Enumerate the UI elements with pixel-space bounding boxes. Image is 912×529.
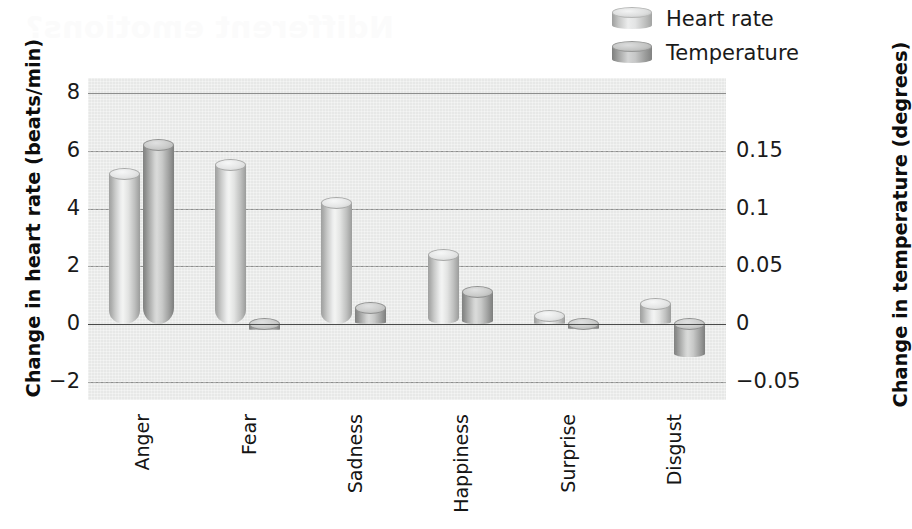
bar-heart-rate-happiness bbox=[428, 249, 459, 324]
bar-shaft bbox=[143, 145, 174, 324]
right-tick-label-1: 0.1 bbox=[736, 198, 806, 219]
gridline-left-0 bbox=[88, 93, 726, 94]
right-tick-label-0: 0.15 bbox=[736, 140, 806, 161]
category-axis-labels: AngerFearSadnessHappinessSurpriseDisgust bbox=[88, 400, 726, 529]
cylinder-dark-icon bbox=[612, 41, 652, 65]
category-label-surprise: Surprise bbox=[557, 414, 579, 493]
gridline-right-4 bbox=[88, 382, 726, 383]
category-label-fear: Fear bbox=[238, 414, 260, 455]
right-tick-label-4: −0.05 bbox=[736, 371, 806, 392]
category-label-sadness: Sadness bbox=[344, 414, 366, 493]
plot-area bbox=[88, 78, 726, 400]
bar-top-ellipse bbox=[143, 139, 174, 151]
bar-top-ellipse bbox=[321, 197, 352, 209]
left-tick-label-5: −2 bbox=[40, 371, 80, 392]
gridline-right-0 bbox=[88, 151, 726, 152]
bar-shaft bbox=[109, 174, 140, 324]
bar-shaft bbox=[321, 203, 352, 324]
bar-temperature-anger bbox=[143, 139, 174, 324]
gridline-right-1 bbox=[88, 209, 726, 210]
left-axis-ticks: 86420−2 bbox=[34, 0, 80, 529]
left-tick-label-4: 0 bbox=[40, 313, 80, 334]
bar-top-ellipse bbox=[534, 310, 565, 322]
bar-shaft bbox=[428, 255, 459, 324]
bar-temperature-happiness bbox=[462, 286, 493, 324]
category-label-happiness: Happiness bbox=[450, 414, 472, 513]
left-tick-label-1: 6 bbox=[40, 140, 80, 161]
left-tick-label-2: 4 bbox=[40, 198, 80, 219]
bar-heart-rate-disgust bbox=[640, 298, 671, 324]
category-label-anger: Anger bbox=[131, 414, 153, 471]
zero-baseline bbox=[88, 324, 726, 325]
bar-top-ellipse bbox=[109, 168, 140, 180]
bar-heart-rate-anger bbox=[109, 168, 140, 324]
bar-top-ellipse bbox=[462, 286, 493, 298]
right-axis-title: Change in temperature (degrees) bbox=[889, 88, 912, 408]
bar-temperature-sadness bbox=[355, 302, 386, 324]
bar-shaft bbox=[215, 165, 246, 324]
category-label-disgust: Disgust bbox=[663, 414, 685, 485]
bar-heart-rate-sadness bbox=[321, 197, 352, 324]
bar-top-ellipse bbox=[428, 249, 459, 261]
right-axis-ticks: 0.150.10.050−0.05 bbox=[736, 0, 806, 529]
left-tick-label-0: 8 bbox=[40, 82, 80, 103]
left-tick-label-3: 2 bbox=[40, 255, 80, 276]
gridline-right-2 bbox=[88, 266, 726, 267]
bar-heart-rate-fear bbox=[215, 159, 246, 324]
cylinder-light-icon bbox=[612, 7, 652, 31]
right-tick-label-3: 0 bbox=[736, 313, 806, 334]
right-tick-label-2: 0.05 bbox=[736, 255, 806, 276]
bar-heart-rate-surprise bbox=[534, 310, 565, 325]
